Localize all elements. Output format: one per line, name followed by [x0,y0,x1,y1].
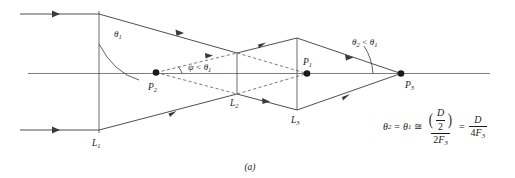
label-P2: P2 [147,82,158,93]
arrowhead-incoming-upper [52,11,60,18]
formula-fraction-2: D 4F3 [469,115,488,140]
label-P1: P1 [302,57,312,68]
arrowhead-L3-P3-lower [342,94,350,101]
formula-theta2: θ2 = θ1 ≅ ( D 2 ) 2F3 = D 4F3 [383,108,488,146]
ray-L1-to-L2-lower [99,94,237,130]
label-theta2-lt-theta1: θ2<θ1 [352,37,377,48]
formula-eq1: = [394,122,400,132]
optics-diagram-canvas: P2 P1 P3 L1 L2 L3 θ1 ψ<θ1 θ2<θ1 (a) [0,0,515,178]
label-theta1: θ1 [114,29,122,40]
formula-lhs-sub: 2 [388,124,391,131]
arrowhead-L2-L3-upper [258,43,266,49]
dashed-L2-lower-to-P1 [237,74,307,95]
point-dot-P1 [304,70,311,77]
formula-frac1-denominator: 2F3 [431,133,450,146]
ray-L3-to-P3-upper [297,38,401,74]
label-L3: L3 [290,115,300,126]
formula-frac1-inner-num: D [435,108,446,120]
figure-caption: (a) [244,162,255,173]
arrowhead-L2-L3-lower [262,98,270,104]
formula-frac2-numerator: D [472,115,483,127]
formula-frac1-inner: D 2 [435,108,446,132]
label-psi-lt-theta1: ψ<θ1 [188,62,211,73]
formula-frac1-numerator: ( D 2 ) [426,108,455,133]
ray-L2-to-L3-upper [237,38,297,53]
arrowhead-dashed-upper [205,53,213,59]
dashed-L2-upper-to-P1 [237,53,307,74]
formula-eq2: ≅ [414,122,422,132]
label-L2: L2 [229,98,239,109]
point-dot-P3 [398,70,405,77]
formula-fraction-1: ( D 2 ) 2F3 [426,108,455,146]
optics-figure: P2 P1 P3 L1 L2 L3 θ1 ψ<θ1 θ2<θ1 (a) θ2 =… [0,0,515,178]
formula-eq3: = [459,122,465,132]
angle-arc-theta1 [99,44,139,80]
angle-arc-theta2 [364,46,373,74]
formula-frac1-inner-den: 2 [436,120,445,133]
formula-mid-sub: 1 [408,124,411,131]
label-P3: P3 [404,80,415,91]
arrowhead-L1-L2-upper [176,30,185,37]
right-paren-icon: ) [448,113,452,127]
dashed-P2-to-L2-lower [156,73,237,95]
formula-frac2-denominator: 4F3 [469,126,488,139]
point-dot-P2 [153,69,160,76]
ray-L3-to-P3-lower [297,74,401,111]
label-L1: L1 [91,138,101,149]
angle-arc-psi [178,67,182,74]
left-paren-icon: ( [429,113,433,127]
arrowhead-incoming-lower [52,127,60,134]
